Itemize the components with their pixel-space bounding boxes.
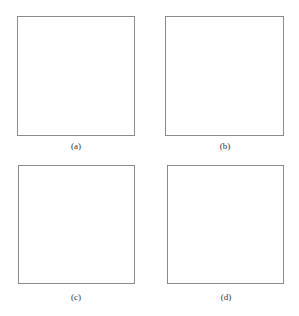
panel-caption-c: (c) [56,292,96,302]
panel-caption-a: (a) [56,141,96,151]
panel-frame-c [18,165,135,284]
panel-caption-b: (b) [205,141,245,151]
panel-frame-b [165,16,284,136]
panel-caption-d: (d) [206,292,246,302]
panel-frame-d [167,165,284,284]
panel-frame-a [17,16,135,136]
figure: (a)(b)(c)(d) [0,0,299,316]
